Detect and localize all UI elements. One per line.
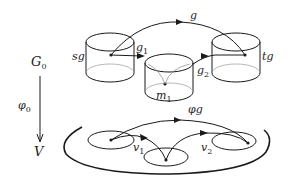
arrow-g2 [193, 55, 245, 64]
label-sg: sg [72, 50, 85, 63]
path-m1-out [165, 64, 190, 84]
arrow-v1-head-icon [140, 134, 148, 141]
label-v2: v2 [201, 141, 212, 156]
arrow-v2-head-icon [200, 130, 208, 136]
label-phi0: φ0 [18, 99, 31, 114]
diagram-canvas: G0 φ0 V sg m1 tg g g1 g2 [0, 0, 298, 183]
arrow-phig-head-icon [174, 117, 181, 123]
label-tg: tg [262, 50, 273, 63]
cylinder-m1 [145, 54, 193, 101]
cylinder-tg [212, 33, 260, 82]
cylinder-sg [86, 33, 134, 82]
label-G0: G0 [31, 54, 46, 71]
label-V: V [34, 144, 45, 159]
label-g2: g2 [197, 64, 209, 79]
label-m1: m1 [156, 89, 172, 104]
label-phig: φg [188, 103, 203, 116]
label-g1: g1 [136, 41, 148, 56]
region-v-m1 [144, 148, 188, 166]
arrow-g-head-icon [176, 19, 183, 25]
label-g: g [190, 9, 197, 22]
morphism-arrow-phi0 [37, 76, 43, 142]
region-v-tg [212, 132, 256, 150]
arrow-g1 [111, 55, 141, 56]
label-v1: v1 [133, 141, 144, 156]
arrow-phig [111, 120, 248, 143]
arrow-g2-head-icon [201, 53, 209, 59]
path-m1-in [148, 64, 165, 84]
